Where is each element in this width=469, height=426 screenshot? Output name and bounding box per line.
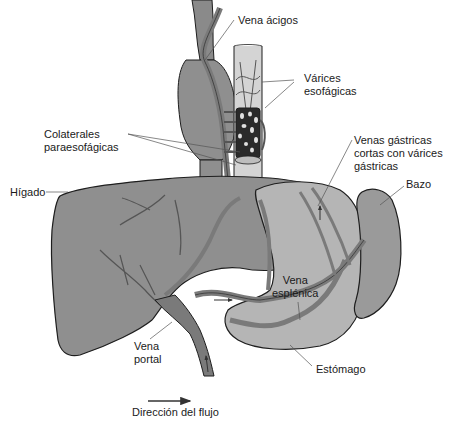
label-bazo: Bazo xyxy=(406,178,431,191)
label-higado: Hígado xyxy=(10,186,45,199)
label-vena-esplenica: Vena esplénica xyxy=(272,274,318,300)
label-colaterales-paraesofagicas: Colaterales paraesofágicas xyxy=(44,128,119,154)
legend-flow-direction: Dirección del flujo xyxy=(132,406,219,419)
label-vena-portal: Vena portal xyxy=(134,340,162,366)
spleen xyxy=(354,189,401,318)
anatomy-diagram xyxy=(0,0,469,426)
label-venas-gastricas-cortas: Venas gástricas cortas con várices gástr… xyxy=(354,134,443,173)
esophageal-varices xyxy=(236,108,260,158)
label-vena-acigos: Vena ácigos xyxy=(238,14,298,27)
label-varices-esofagicas: Várices esofágicas xyxy=(304,72,357,98)
label-estomago: Estómago xyxy=(316,363,366,376)
